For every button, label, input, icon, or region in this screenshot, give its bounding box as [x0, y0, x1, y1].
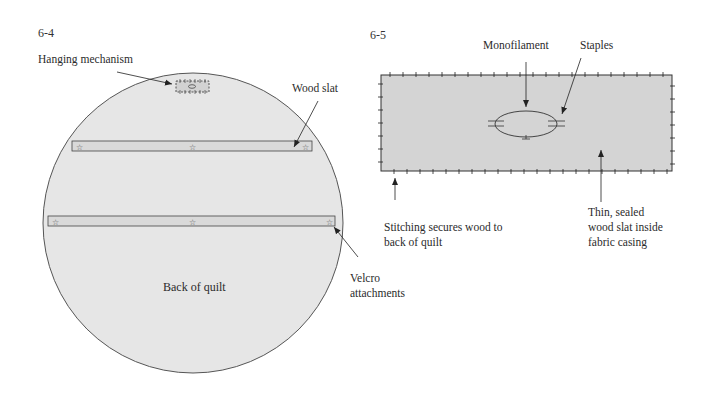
label-velcro-line2: attachments [350, 286, 405, 301]
hanging-mechanism-patch [176, 79, 209, 94]
label-slat-casing-line2: wood slat inside [588, 220, 663, 235]
label-stitching-line2: back of quilt [384, 235, 442, 250]
wood-slat-lower: ☆ ☆ ☆ [48, 216, 335, 227]
figure-6-5-number: 6-5 [370, 28, 386, 43]
label-wood-slat: Wood slat [292, 81, 338, 96]
velcro-star-icon: ☆ [302, 143, 309, 152]
wood-slat-upper: ☆ ☆ ☆ [72, 141, 312, 152]
diagram-canvas: 6-4 ☆ ☆ [0, 0, 709, 394]
velcro-star-icon: ☆ [76, 143, 83, 152]
velcro-star-icon: ☆ [326, 218, 333, 227]
velcro-star-icon: ☆ [189, 143, 196, 152]
label-slat-casing-line3: fabric casing [588, 235, 647, 250]
label-hanging-mechanism: Hanging mechanism [38, 52, 133, 67]
label-slat-casing-line1: Thin, sealed [588, 205, 644, 220]
velcro-star-icon: ☆ [52, 218, 59, 227]
label-staples: Staples [580, 38, 613, 53]
label-back-of-quilt: Back of quilt [163, 280, 226, 295]
label-velcro-line1: Velcro [350, 271, 380, 286]
label-stitching-line1: Stitching secures wood to [384, 220, 503, 235]
velcro-star-icon: ☆ [189, 218, 196, 227]
label-monofilament: Monofilament [483, 38, 549, 53]
fabric-casing [378, 72, 675, 174]
